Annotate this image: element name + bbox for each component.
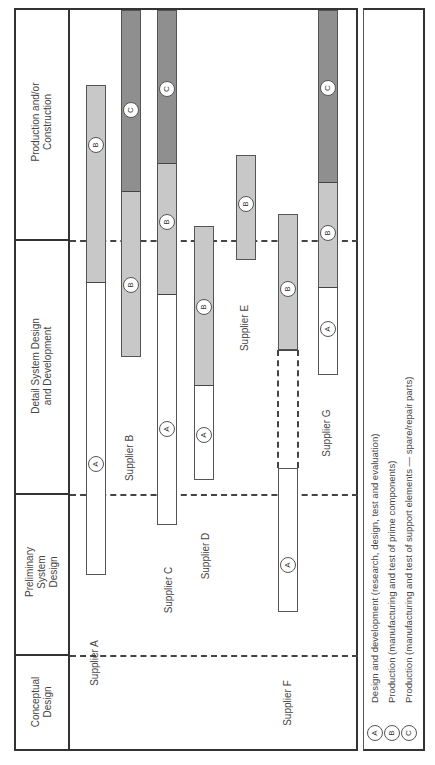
marker-label: A [281, 562, 295, 567]
marker-c: C [123, 102, 139, 118]
phase-label-line: and Development [42, 286, 54, 446]
phase-label-line: Detail System Design [30, 286, 42, 446]
supplier-d-label: Supplier D [200, 521, 212, 591]
marker-b: B [123, 277, 139, 293]
legend-text-c: Production (manufacturing and test of su… [403, 377, 414, 703]
segment-c [122, 11, 140, 191]
segment-c [319, 11, 337, 182]
marker-label: A [160, 426, 174, 431]
marker-label: B [281, 286, 295, 291]
marker-label: A [89, 461, 103, 466]
supplier-c-label: Supplier C [163, 555, 175, 625]
segment-divider [278, 350, 298, 351]
supplier-a-label: Supplier A [89, 628, 101, 698]
segment-a [158, 294, 176, 524]
supplier-a-bar [86, 85, 106, 575]
marker-a: A [280, 557, 296, 573]
marker-c: C [159, 81, 175, 97]
phase-label-line: Preliminary [24, 522, 36, 622]
marker-label: B [197, 304, 211, 309]
supplier-b-bar [121, 10, 141, 357]
legend-marker-a: A [367, 725, 383, 741]
phase-label-line: System [36, 522, 48, 622]
phase-divider-production-detail [14, 239, 70, 241]
segment-divider [158, 163, 176, 164]
legend-text-b: Production (manufacturing and test of pr… [386, 461, 397, 703]
marker-a: A [88, 456, 104, 472]
marker-label: C [160, 86, 174, 92]
phase-boundary-line [70, 655, 358, 657]
segment-divider [195, 385, 213, 386]
legend-key: C [402, 730, 416, 736]
marker-label: A [197, 432, 211, 437]
segment-divider [319, 182, 337, 183]
marker-label: B [89, 142, 103, 147]
supplier-e-label: Supplier E [239, 293, 251, 363]
marker-label: B [160, 219, 174, 224]
legend-marker-b: B [384, 725, 400, 741]
segment-divider [319, 287, 337, 288]
marker-b: B [159, 214, 175, 230]
marker-label: C [321, 85, 335, 91]
phase-label-preliminary: Preliminary System Design [24, 522, 60, 622]
phase-label-line: Production and/or [30, 62, 42, 182]
phase-label-line: Construction [42, 62, 54, 182]
marker-label: B [321, 230, 335, 235]
legend-text-a: Design and development (research, design… [369, 434, 380, 703]
marker-label: B [239, 201, 253, 206]
supplier-b-label: Supplier B [124, 423, 136, 493]
marker-b: B [88, 137, 104, 153]
marker-b: B [280, 281, 296, 297]
marker-b: B [196, 299, 212, 315]
marker-label: A [321, 326, 335, 331]
segment-divider [87, 282, 105, 283]
supplier-g-label: Supplier G [321, 398, 333, 468]
marker-c: C [320, 80, 336, 96]
legend-marker-c: C [401, 725, 417, 741]
phase-boundary-line [70, 494, 358, 496]
segment-divider [158, 294, 176, 295]
marker-a: A [320, 321, 336, 337]
phase-boundary-line [70, 240, 358, 242]
marker-b: B [320, 225, 336, 241]
phase-divider-detail-preliminary [14, 493, 70, 495]
segment-b [87, 86, 105, 282]
legend-key: A [368, 730, 382, 735]
segment-divider [122, 191, 140, 192]
phase-label-line: Conceptual [30, 652, 42, 752]
supplier-f-bar [278, 214, 298, 612]
legend-key: B [385, 730, 399, 735]
segment-gap-dashed [277, 350, 299, 468]
phase-label-conceptual: Conceptual Design [30, 652, 54, 752]
segment-a [278, 468, 298, 612]
marker-label: C [124, 107, 138, 113]
supplier-f-label: Supplier F [282, 668, 294, 738]
marker-a: A [159, 421, 175, 437]
phase-label-detail: Detail System Design and Development [30, 286, 54, 446]
marker-a: A [196, 427, 212, 443]
phase-label-line: Design [42, 652, 54, 752]
phase-label-line: Design [48, 522, 60, 622]
marker-label: B [124, 282, 138, 287]
segment-b [122, 191, 140, 356]
phase-label-production: Production and/or Construction [30, 62, 54, 182]
marker-b: B [238, 196, 254, 212]
segment-a [87, 282, 105, 574]
